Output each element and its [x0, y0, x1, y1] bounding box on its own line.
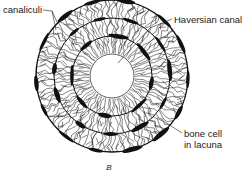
lacuna: [108, 33, 129, 41]
haversian-canal-label: Haversian canal: [174, 14, 242, 25]
canaliculi-leader-line: [43, 10, 58, 24]
lacuna: [175, 34, 187, 54]
lacuna: [148, 76, 155, 90]
lacuna: [52, 86, 62, 103]
lacuna: [116, 0, 136, 5]
canaliculi-label: canaliculi: [3, 4, 42, 15]
lacuna: [33, 75, 39, 92]
lacuna: [122, 144, 144, 155]
figure-caption: B: [106, 163, 112, 172]
bone-cell-label-line2: in lacuna: [184, 139, 222, 150]
lacuna: [56, 9, 74, 24]
haversian-canal: [90, 54, 134, 98]
lacuna: [79, 39, 93, 52]
bone-cell-label: bone cell in lacuna: [184, 128, 222, 150]
lacuna: [130, 120, 150, 134]
lacuna: [103, 132, 118, 136]
lacuna: [88, 147, 104, 154]
lacuna: [130, 97, 148, 114]
bone-cell-label-line1: bone cell: [184, 128, 222, 139]
lacuna: [186, 71, 190, 89]
